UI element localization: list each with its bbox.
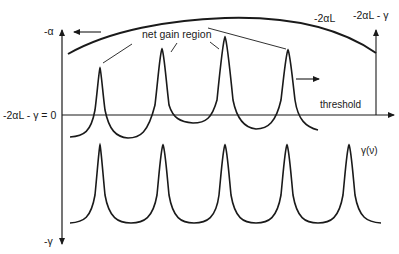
pointer-line-4 [208,28,286,49]
pointer-line-2 [171,43,177,52]
pointer-line-1 [103,44,132,63]
net-gain-region-label: net gain region [142,28,212,40]
loss-curve [70,145,381,223]
right-axis-label: -2αL - γ [353,9,389,21]
y-axis-top-label: -α [44,25,54,37]
pointer-line-3 [210,42,219,49]
y-axis-bottom-label: -γ [44,235,53,247]
loss-curve-label: γ(ν) [361,145,378,156]
net-gain-curve [70,37,318,138]
threshold-label: threshold [320,99,361,110]
gain-curve-label: -2αL [314,12,335,24]
gain-threshold-diagram: -α -γ -2αL - γ = 0 -2αL -2αL - γ net gai… [0,0,399,254]
threshold-axis-label: -2αL - γ = 0 [3,109,56,121]
